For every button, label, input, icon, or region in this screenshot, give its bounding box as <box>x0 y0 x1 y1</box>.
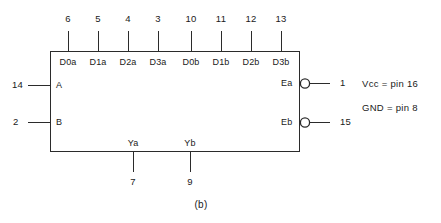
port-label-yb: Yb <box>184 138 195 148</box>
port-label-b: B <box>56 117 62 127</box>
note-vcc-pin: Vcc = pin 16 <box>362 79 418 89</box>
port-label-d1b: D1b <box>212 57 229 67</box>
port-label-ea: Ea <box>281 78 292 88</box>
top-pin-stubs <box>69 31 282 51</box>
pin-number-top-5: 10 <box>186 14 197 24</box>
pin-number-left-b: 2 <box>13 117 18 127</box>
pin-number-bottom-yb: 9 <box>187 177 192 187</box>
port-label-d0a: D0a <box>59 57 76 67</box>
pin-number-top-6: 11 <box>216 14 226 24</box>
pin-number-top-8: 13 <box>276 14 287 24</box>
pin-number-top-3: 4 <box>125 14 130 24</box>
pin-number-bottom-ya: 7 <box>130 177 135 187</box>
port-label-d2b: D2b <box>242 57 259 67</box>
pin-number-top-2: 5 <box>95 14 100 24</box>
right-pin-stubs <box>300 79 330 127</box>
port-label-d1a: D1a <box>89 57 106 67</box>
pin-number-top-4: 3 <box>155 14 160 24</box>
inversion-bubble-ea <box>300 79 309 88</box>
port-label-d2a: D2a <box>119 57 136 67</box>
pin-number-top-7: 12 <box>246 14 257 24</box>
port-label-ya: Ya <box>128 138 139 148</box>
port-label-a: A <box>56 80 62 90</box>
port-label-d3b: D3b <box>272 57 289 67</box>
pin-number-right-eb: 15 <box>340 117 351 127</box>
port-label-eb: Eb <box>281 117 292 127</box>
figure-caption: (b) <box>195 200 208 210</box>
pin-number-top-1: 6 <box>65 14 70 24</box>
pin-number-right-ea: 1 <box>340 78 345 88</box>
pin-number-left-a: 14 <box>12 80 23 90</box>
bottom-pin-stubs <box>134 152 191 172</box>
left-pin-stubs <box>28 86 50 123</box>
device-body-outline <box>51 52 300 152</box>
port-label-d0b: D0b <box>182 57 199 67</box>
inversion-bubble-eb <box>300 118 309 127</box>
note-gnd-pin: GND = pin 8 <box>362 103 418 113</box>
logic-symbol-diagram: 6 5 4 3 10 11 12 13 D0a D1a D2a D3a D0b … <box>0 0 441 223</box>
port-label-d3a: D3a <box>149 57 166 67</box>
